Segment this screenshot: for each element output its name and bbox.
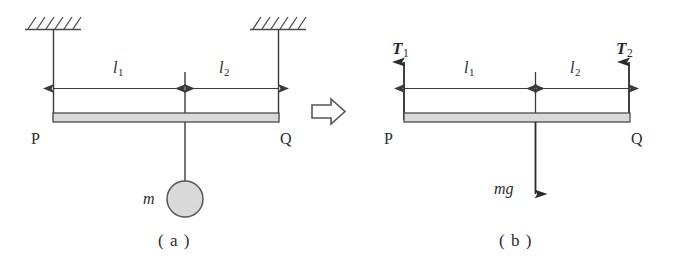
panel-a-artwork xyxy=(25,17,306,217)
label-t2: T2 xyxy=(616,40,633,60)
physics-figure: l1 l2 P Q m ( a ) T1 T2 l1 l2 P Q mg ( b… xyxy=(0,0,677,268)
caption-panel-a: ( a ) xyxy=(158,232,190,249)
beam-pq-b xyxy=(404,113,630,122)
label-weight-mg: mg xyxy=(494,181,514,197)
caption-panel-b: ( b ) xyxy=(499,232,532,249)
transform-arrow-icon xyxy=(312,99,345,124)
label-l2-a: l2 xyxy=(219,60,229,78)
support-hatch-left xyxy=(25,17,81,30)
label-q-a: Q xyxy=(280,131,292,147)
label-q-b: Q xyxy=(631,131,643,147)
panel-b-artwork xyxy=(404,62,630,194)
label-l1-b: l1 xyxy=(464,60,474,78)
hanging-mass-circle xyxy=(167,181,203,217)
beam-pq xyxy=(53,113,279,122)
label-t1: T1 xyxy=(392,40,409,60)
label-p-a: P xyxy=(31,131,40,147)
support-hatch-right xyxy=(250,17,306,30)
label-l2-b: l2 xyxy=(570,60,580,78)
label-mass-m: m xyxy=(143,191,155,207)
figure-canvas xyxy=(0,0,677,268)
label-l1-a: l1 xyxy=(113,60,123,78)
label-p-b: P xyxy=(384,131,393,147)
